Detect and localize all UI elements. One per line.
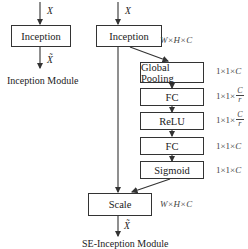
inception-dim: W×H×C xyxy=(160,35,192,45)
block-label: Sigmoid xyxy=(154,165,190,176)
right-input-label: X xyxy=(125,6,131,16)
scale-dim: W×H×C xyxy=(160,199,192,209)
relu-dim: 1×1× Cr xyxy=(216,111,244,128)
scale-label: Scale xyxy=(109,199,132,210)
left-inception-block: Inception xyxy=(11,25,71,47)
left-input-label: X xyxy=(47,6,53,16)
block-label: FC xyxy=(166,92,179,103)
left-output-label: X̃ xyxy=(47,55,53,65)
global-pooling-block: Global Pooling xyxy=(140,62,204,83)
sigmoid-block: Sigmoid xyxy=(140,161,204,179)
left-inception-label: Inception xyxy=(21,31,61,42)
global-pooling-dim: 1×1×C xyxy=(216,66,241,76)
fc1-block: FC xyxy=(140,88,204,106)
right-caption: SE-Inception Module xyxy=(82,238,168,249)
fc1-dim: 1×1× Cr xyxy=(216,87,244,104)
relu-block: ReLU xyxy=(140,112,204,130)
left-caption: Inception Module xyxy=(7,75,78,86)
right-inception-label: Inception xyxy=(109,31,149,42)
block-label: ReLU xyxy=(159,116,185,127)
block-label: FC xyxy=(166,141,179,152)
right-inception-block: Inception xyxy=(96,25,162,47)
sigmoid-dim: 1×1×C xyxy=(216,165,241,175)
block-label: Global Pooling xyxy=(141,62,203,84)
right-output-label: X̃ xyxy=(124,221,130,231)
fc2-block: FC xyxy=(140,137,204,155)
fc2-dim: 1×1×C xyxy=(216,141,241,151)
scale-block: Scale xyxy=(88,193,152,216)
